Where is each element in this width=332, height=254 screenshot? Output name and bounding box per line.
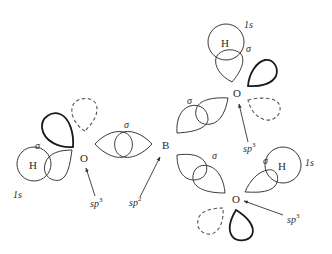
- oxygen-label-top: O: [233, 87, 241, 99]
- orbital-1s-label-top: 1s: [244, 19, 253, 30]
- upper-right-sigma-bond: σ: [177, 95, 228, 133]
- top-hydroxyl-group: H 1s σ O: [208, 19, 280, 120]
- orbital-1s-label-left: 1s: [13, 189, 22, 200]
- sigma-label-top: σ: [246, 43, 252, 54]
- sp2-label: sp2: [129, 195, 142, 208]
- bottom-hydroxyl-group: H 1s σ O: [198, 147, 314, 240]
- sigma-label-bottom: σ: [263, 155, 269, 166]
- oxygen-label-left: O: [80, 152, 88, 164]
- lone-pair-lobe-bold: [42, 113, 73, 147]
- sp2-lobe-center-right: [115, 131, 152, 157]
- sp3-lobe-bottom: [245, 170, 278, 192]
- boric-acid-orbital-diagram: H σ 1s O σ B H 1s σ O σ σ H 1s σ: [0, 0, 332, 254]
- sp3-lobe-center-left: [95, 131, 132, 157]
- lone-pair-lobe-bold-top: [248, 60, 277, 86]
- hydrogen-label-left: H: [29, 159, 37, 171]
- arrow-sp3-bottom: [244, 201, 283, 215]
- sp2-lobe-upper-right: [177, 105, 208, 133]
- arrow-sp2: [140, 157, 160, 197]
- lone-pair-lobe-dashed-top: [248, 98, 280, 120]
- lone-pair-lobe-bold-bottom: [230, 210, 253, 240]
- arrow-sp3-left: [86, 168, 95, 196]
- orbital-1s-label-bottom: 1s: [305, 157, 314, 168]
- lone-pair-lobe-dashed-bottom: [198, 208, 223, 234]
- oxygen-label-bottom: O: [232, 193, 240, 205]
- sp3-label-bottom: sp3: [287, 212, 300, 225]
- sigma-label-center: σ: [124, 119, 130, 130]
- lower-right-sigma-bond: σ: [177, 150, 225, 193]
- hydrogen-label-bottom: H: [278, 160, 286, 172]
- left-hydroxyl-group: H σ 1s O: [13, 98, 97, 200]
- sp2-lobe-lower-right: [177, 154, 207, 180]
- sp3-label-left: sp3: [90, 196, 103, 209]
- lone-pair-lobe-dashed: [72, 98, 97, 131]
- sigma-label-left: σ: [35, 140, 41, 151]
- center-sigma-bond: σ B: [95, 119, 169, 157]
- sigma-label-lower-right: σ: [212, 150, 218, 161]
- sp3-lobe-upper-right: [196, 98, 228, 125]
- hydrogen-label-top: H: [221, 37, 229, 49]
- boron-label: B: [162, 139, 169, 151]
- sigma-label-upper-right: σ: [187, 95, 193, 106]
- sp3-label-top: sp3: [243, 141, 256, 154]
- arrow-sp3-top: [239, 104, 248, 142]
